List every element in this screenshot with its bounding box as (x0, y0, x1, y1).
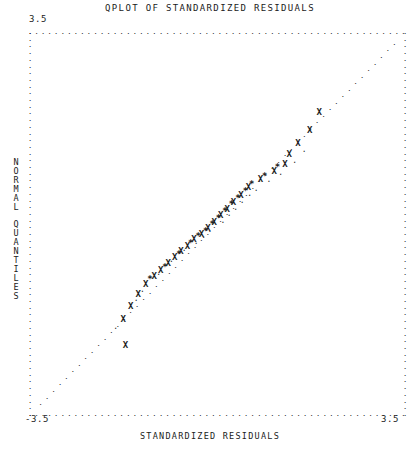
reference-line-dot: . (90, 347, 94, 354)
reference-line-dot: . (386, 46, 390, 53)
reference-line-dot: . (392, 39, 396, 46)
axis-frame-dot-bottom: . (237, 411, 241, 418)
reference-line-dot: . (39, 400, 43, 407)
axis-frame-dot-top: . (126, 29, 130, 36)
axis-frame-dot-top: . (120, 29, 124, 36)
axis-frame-dot-bottom: . (296, 411, 300, 418)
axis-frame-dot-bottom: . (185, 411, 189, 418)
axis-frame-dot-top: . (192, 29, 196, 36)
axis-frame-dot-top: . (244, 29, 248, 36)
axis-frame-dot-bottom: . (106, 411, 110, 418)
y-axis-label-char: S (9, 292, 23, 301)
axis-frame-dot-bottom: . (349, 411, 353, 418)
axis-frame-dot-bottom: . (303, 411, 307, 418)
y-axis-label: NORMALQUANTILES (9, 158, 23, 301)
axis-frame-dot-top: . (395, 29, 399, 36)
data-point-dot: . (278, 169, 283, 177)
axis-frame-dot-right: . (403, 410, 407, 417)
data-point-star: * (188, 238, 193, 247)
axis-frame-dot-bottom: . (113, 411, 117, 418)
axis-frame-dot-bottom: . (388, 411, 392, 418)
axis-frame-dot-bottom: . (244, 411, 248, 418)
axis-frame-dot-top: . (139, 29, 143, 36)
data-point-dot: . (208, 226, 213, 234)
data-point-x: X (307, 126, 312, 135)
data-point-dot: . (140, 286, 145, 294)
axis-frame-dot-top: . (336, 29, 340, 36)
reference-line-dot: . (84, 354, 88, 361)
axis-frame-dot-bottom: . (159, 411, 163, 418)
data-point-star: * (162, 262, 167, 271)
reference-line-dot: . (328, 105, 332, 112)
axis-frame-dot-top: . (264, 29, 268, 36)
axis-frame-dot-bottom: . (126, 411, 130, 418)
axis-frame-dot-top: . (362, 29, 366, 36)
reference-line-dot: . (58, 380, 62, 387)
data-point-dot: . (113, 323, 118, 331)
axis-frame-dot-top: . (100, 29, 104, 36)
axis-frame-dot-bottom: . (74, 411, 78, 418)
reference-line-dot: . (334, 98, 338, 105)
chart-title: QPLOT OF STANDARDIZED RESIDUALS (0, 3, 420, 13)
axis-frame-dot-top: . (382, 29, 386, 36)
data-point-dot: . (134, 295, 139, 303)
axis-frame-dot-bottom: . (100, 411, 104, 418)
reference-line-dot: . (321, 111, 325, 118)
reference-line-dot: . (103, 334, 107, 341)
axis-frame-dot-bottom: . (395, 411, 399, 418)
axis-frame-dot-top: . (146, 29, 150, 36)
axis-frame-dot-bottom: . (61, 411, 65, 418)
axis-frame-dot-bottom: . (172, 411, 176, 418)
data-point-star: * (147, 274, 152, 283)
data-point-dot: . (302, 146, 307, 154)
axis-frame-dot-top: . (368, 29, 372, 36)
axis-frame-dot-top: . (388, 29, 392, 36)
reference-line-dot: . (354, 79, 358, 86)
reference-line-dot: . (64, 373, 68, 380)
axis-frame-dot-bottom: . (54, 411, 58, 418)
axis-frame-dot-top: . (329, 29, 333, 36)
data-point-x: X (287, 150, 292, 159)
axis-frame-dot-bottom: . (139, 411, 143, 418)
axis-frame-dot-bottom: . (382, 411, 386, 418)
axis-frame-dot-top: . (290, 29, 294, 36)
axis-frame-dot-bottom: . (231, 411, 235, 418)
reference-line-dot: . (71, 367, 75, 374)
axis-frame-dot-top: . (355, 29, 359, 36)
axis-frame-dot-bottom: . (205, 411, 209, 418)
data-point-dot: . (240, 197, 245, 205)
axis-frame-dot-top: . (48, 29, 52, 36)
axis-frame-dot-bottom: . (283, 411, 287, 418)
data-point-dot: . (254, 185, 259, 193)
axis-frame-dot-bottom: . (290, 411, 294, 418)
reference-line-dot: . (341, 92, 345, 99)
axis-frame-dot-top: . (303, 29, 307, 36)
axis-frame-dot-top: . (218, 29, 222, 36)
axis-frame-dot-bottom: . (342, 411, 346, 418)
data-point-dot: . (267, 176, 272, 184)
axis-frame-dot-bottom: . (179, 411, 183, 418)
data-point-x: X (120, 315, 125, 324)
axis-frame-dot-top: . (133, 29, 137, 36)
reference-line-dot: . (174, 262, 178, 269)
axis-frame-dot-top: . (205, 29, 209, 36)
axis-frame-dot-top: . (231, 29, 235, 36)
axis-frame-dot-bottom: . (41, 411, 45, 418)
axis-frame-dot-top: . (165, 29, 169, 36)
axis-frame-dot-top: . (41, 29, 45, 36)
axis-frame-dot-left: . (28, 410, 32, 417)
axis-frame-dot-top: . (106, 29, 110, 36)
axis-frame-dot-bottom: . (48, 411, 52, 418)
data-point-dot: . (182, 245, 187, 253)
axis-frame-dot-top: . (349, 29, 353, 36)
axis-frame-dot-top: . (67, 29, 71, 36)
axis-frame-dot-bottom: . (218, 411, 222, 418)
axis-frame-dot-top: . (113, 29, 117, 36)
axis-frame-dot-top: . (74, 29, 78, 36)
axis-frame-dot-bottom: . (87, 411, 91, 418)
axis-frame-dot-bottom: . (67, 411, 71, 418)
reference-line-dot: . (96, 341, 100, 348)
y-axis-label-char: L (9, 203, 23, 212)
axis-frame-dot-bottom: . (264, 411, 268, 418)
reference-line-dot: . (366, 66, 370, 73)
